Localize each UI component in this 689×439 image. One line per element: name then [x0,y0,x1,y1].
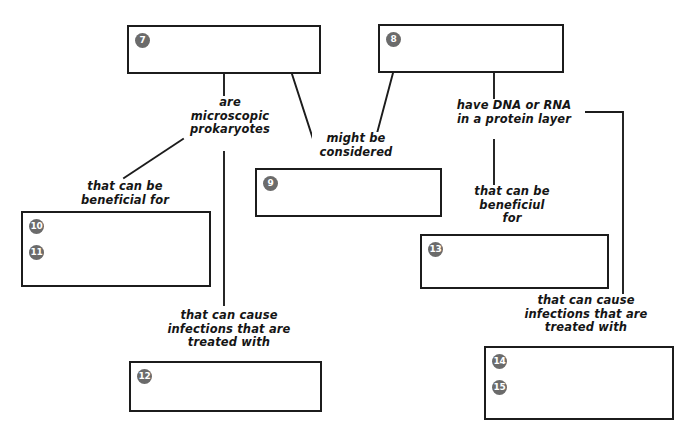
label_have_dna_or_rna: have DNA or RNA in a protein layer [443,99,585,126]
item-number-badge-9: 9 [263,176,278,191]
wire-are-microscopic-to-beneficial [124,139,183,178]
item-number-badge-15: 15 [492,380,507,395]
label_are_microscopic: are microscopic prokaryotes [185,96,275,137]
item-number-badge-8: 8 [386,32,401,47]
answer-box-14-15[interactable] [484,346,674,420]
item-number-badge-14: 14 [492,354,507,369]
item-number-badge-10: 10 [29,219,44,234]
item-number-badge-12: 12 [137,369,152,384]
answer-box-13[interactable] [420,234,609,289]
label_beneficial_left: that can be beneficial for [75,180,175,207]
answer-box-8[interactable] [378,24,564,73]
label_might_be_considered: might be considered [312,132,400,159]
answer-box-12[interactable] [129,361,322,412]
concept-map-canvas: 789101112131415 are microscopic prokaryo… [0,0,689,439]
answer-box-9[interactable] [255,168,442,217]
wire-box8-to-might-be-considered [376,73,393,137]
label_beneficial_right: that can be beneficiul for [471,185,553,226]
label_infections_left: that can cause infections that are treat… [164,309,294,350]
item-number-badge-13: 13 [428,242,443,257]
item-number-badge-11: 11 [29,245,44,260]
label_infections_right: that can cause infections that are treat… [521,294,651,335]
wire-box7-to-might-be-considered [292,74,313,139]
item-number-badge-7: 7 [135,33,150,48]
answer-box-7[interactable] [127,25,321,74]
answer-box-10-11[interactable] [21,211,211,287]
